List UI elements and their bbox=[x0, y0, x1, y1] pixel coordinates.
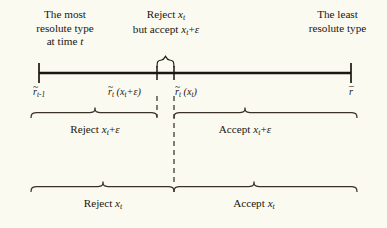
label-middle-accept: Accept xt+ε bbox=[200, 124, 290, 137]
brace-reject-xt-accept-eps bbox=[157, 56, 174, 67]
tilde-accent-1: ~ bbox=[33, 82, 37, 92]
label-bottom-reject-text: Reject bbox=[84, 197, 115, 209]
resolution-threshold-diagram: The most resolute type at time t Reject … bbox=[0, 0, 387, 228]
label-bottom-accept-text: Accept bbox=[233, 197, 267, 209]
tick-label-r-tilde-t-xt-plus-eps: ~rt (xt+ε) bbox=[108, 87, 172, 98]
label-middle-reject-text: Reject bbox=[70, 123, 101, 135]
tilde-accent-2: ~ bbox=[108, 82, 112, 92]
diagram-graphics bbox=[0, 0, 387, 228]
brace-bottom-reject bbox=[31, 182, 174, 192]
brace-middle-reject bbox=[31, 108, 157, 118]
label-bottom-reject-sub: t bbox=[120, 202, 122, 211]
tick-0-sub-suffix: -1 bbox=[39, 90, 45, 99]
bar-accent: – bbox=[349, 81, 353, 91]
label-bottom-accept-sub: t bbox=[273, 202, 275, 211]
brace-middle-accept bbox=[174, 108, 357, 118]
brace-bottom-accept bbox=[174, 182, 357, 192]
tick-label-r-bar: –r bbox=[336, 87, 366, 97]
tick-label-r-tilde-t-minus-1: ~rt-1 bbox=[19, 87, 59, 98]
tilde-accent-3: ~ bbox=[175, 82, 179, 92]
label-bottom-accept: Accept xt bbox=[214, 198, 294, 211]
tick-label-r-tilde-t-xt: ~rt (xt) bbox=[175, 87, 227, 98]
label-middle-accept-eps: ε bbox=[267, 123, 271, 135]
tick-1-arg-tail: +ε) bbox=[127, 86, 141, 97]
label-middle-reject: Reject xt+ε bbox=[50, 124, 140, 137]
label-bottom-reject: Reject xt bbox=[63, 198, 143, 211]
label-middle-reject-eps: ε bbox=[115, 123, 119, 135]
label-middle-accept-text: Accept bbox=[219, 123, 253, 135]
tick-2-arg-tail: ) bbox=[194, 86, 197, 97]
